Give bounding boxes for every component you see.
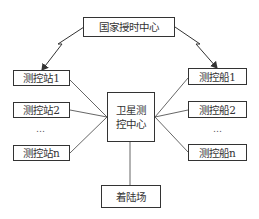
node-station-1: 测控站1 [13,70,70,86]
node-satellite-control-center: 卫星测 控中心 [107,92,155,142]
node-station-2: 测控站2 [13,102,70,118]
left-ellipsis: … [36,124,45,134]
node-station-n: 测控站n [13,145,70,161]
right-ellipsis: … [213,124,222,134]
node-landing-site: 着陆场 [101,185,161,208]
node-label: 测控站1 [23,71,60,85]
node-label: 测控站2 [23,103,60,117]
node-label: 着陆场 [116,190,146,204]
node-ship-n: 测控船n [188,144,247,161]
zigzag-arrow-left [42,27,84,70]
node-ship-2: 测控船2 [188,101,247,118]
node-label: 测控船1 [199,70,236,84]
node-label: 测控船2 [199,103,236,117]
node-label: 国家授时中心 [99,20,159,34]
node-label: 测控船n [199,146,236,160]
node-ship-1: 测控船1 [188,68,247,85]
node-label-line1: 卫星测 [116,103,146,117]
node-label-line2: 控中心 [116,117,146,131]
zigzag-arrow-right [175,27,217,68]
node-label: 测控站n [23,146,60,160]
node-national-time-center: 国家授时中心 [83,17,175,37]
